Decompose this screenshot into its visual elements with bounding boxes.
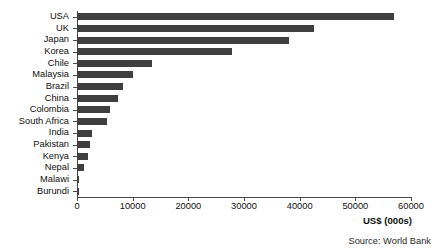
bar-chart: USAUKJapanKoreaChileMalaysiaBrazilChinaC… xyxy=(0,0,439,252)
category-label-colombia: Colombia xyxy=(0,104,73,116)
source-note: Source: World Bank xyxy=(348,236,431,246)
bar-row xyxy=(77,34,411,46)
x-axis-tick-label: 50000 xyxy=(342,202,368,211)
bar-row xyxy=(77,11,411,23)
category-label-uk: UK xyxy=(0,23,73,35)
bar-nepal xyxy=(77,164,84,171)
bar-row xyxy=(77,162,411,174)
category-label-burundi: Burundi xyxy=(0,185,73,197)
category-label-china: China xyxy=(0,92,73,104)
category-label-kenya: Kenya xyxy=(0,151,73,163)
bar-south-africa xyxy=(77,118,107,125)
bar-india xyxy=(77,130,92,137)
bar-korea xyxy=(77,48,232,55)
x-axis-tick-label: 20000 xyxy=(175,202,201,211)
bar-row xyxy=(77,46,411,58)
bar-usa xyxy=(77,13,394,20)
bar-japan xyxy=(77,37,289,44)
category-label-brazil: Brazil xyxy=(0,81,73,93)
plot-area xyxy=(77,11,411,197)
category-label-nepal: Nepal xyxy=(0,162,73,174)
bar-malaysia xyxy=(77,71,133,78)
category-label-korea: Korea xyxy=(0,46,73,58)
category-label-japan: Japan xyxy=(0,34,73,46)
bar-chile xyxy=(77,60,152,67)
x-axis-title: US$ (000s) xyxy=(363,215,412,226)
category-axis-labels: USAUKJapanKoreaChileMalaysiaBrazilChinaC… xyxy=(0,11,73,197)
bar-rows xyxy=(77,11,411,197)
bar-kenya xyxy=(77,153,88,160)
bar-row xyxy=(77,174,411,186)
x-axis-tick-label: 60000 xyxy=(398,202,424,211)
category-label-chile: Chile xyxy=(0,58,73,70)
x-axis-tick-label: 0 xyxy=(74,202,79,211)
bar-row xyxy=(77,104,411,116)
bar-burundi xyxy=(77,188,79,195)
bar-row xyxy=(77,116,411,128)
x-axis-tick-label: 10000 xyxy=(120,202,146,211)
bar-row xyxy=(77,151,411,163)
x-axis-tick-label: 30000 xyxy=(231,202,257,211)
bar-row xyxy=(77,139,411,151)
bar-row xyxy=(77,185,411,197)
category-label-south-africa: South Africa xyxy=(0,116,73,128)
bar-malawi xyxy=(77,176,79,183)
x-axis-tick-label: 40000 xyxy=(287,202,313,211)
bar-row xyxy=(77,127,411,139)
category-label-pakistan: Pakistan xyxy=(0,139,73,151)
bar-row xyxy=(77,23,411,35)
bar-colombia xyxy=(77,106,110,113)
bar-pakistan xyxy=(77,141,90,148)
x-axis-tick-labels: 0100002000030000400005000060000 xyxy=(0,202,439,216)
category-label-usa: USA xyxy=(0,11,73,23)
bar-china xyxy=(77,95,118,102)
bar-uk xyxy=(77,25,314,32)
bar-row xyxy=(77,81,411,93)
category-label-malaysia: Malaysia xyxy=(0,69,73,81)
bar-row xyxy=(77,58,411,70)
bar-brazil xyxy=(77,83,123,90)
category-label-india: India xyxy=(0,127,73,139)
bar-row xyxy=(77,92,411,104)
bar-row xyxy=(77,69,411,81)
category-label-malawi: Malawi xyxy=(0,174,73,186)
